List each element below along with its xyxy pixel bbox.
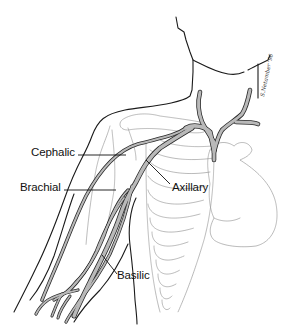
heart-outline: [208, 143, 277, 247]
label-basilic: Basilic: [117, 270, 150, 282]
label-brachial: Brachial: [20, 182, 61, 194]
anatomy-figure: Cephalic Brachial Axillary Basilic S.Net…: [0, 0, 285, 326]
skeleton-outline: [86, 114, 214, 312]
label-leaders: [64, 155, 170, 274]
label-cephalic: Cephalic: [31, 147, 75, 159]
label-axillary: Axillary: [172, 182, 208, 194]
